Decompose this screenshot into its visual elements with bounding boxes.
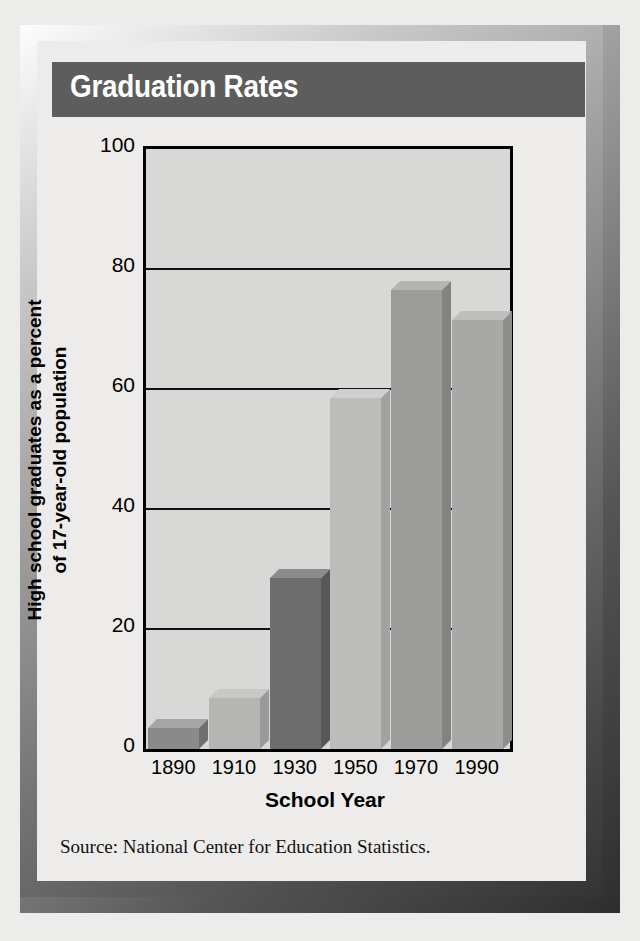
bar-top-1910 xyxy=(209,689,269,698)
figure-container: Graduation Rates 020406080100 1890191019… xyxy=(0,0,640,941)
x-tick-label-1970: 1970 xyxy=(386,756,447,779)
bar-front-1890 xyxy=(148,728,199,749)
bar-1950 xyxy=(330,389,381,749)
title-band: Graduation Rates xyxy=(52,62,585,117)
source-note: Source: National Center for Education St… xyxy=(60,836,430,858)
x-tick-label-1950: 1950 xyxy=(325,756,386,779)
bar-top-1930 xyxy=(270,569,330,578)
bar-top-1990 xyxy=(452,311,512,320)
x-tick-label-1890: 1890 xyxy=(143,756,204,779)
y-axis-title-line1: High school graduates as a percent xyxy=(24,300,45,621)
bar-top-1890 xyxy=(148,719,208,728)
gridline-80 xyxy=(146,268,510,270)
x-tick-label-1910: 1910 xyxy=(204,756,265,779)
bar-top-1950 xyxy=(330,389,390,398)
page-title: Graduation Rates xyxy=(70,69,298,105)
bar-1890 xyxy=(148,719,199,749)
bar-front-1930 xyxy=(270,578,321,749)
y-tick-label-100: 100 xyxy=(100,133,135,157)
y-tick-label-0: 0 xyxy=(123,733,135,757)
bar-front-1950 xyxy=(330,398,381,749)
bar-side-1950 xyxy=(381,389,390,749)
bar-side-1910 xyxy=(260,689,269,749)
y-tick-label-20: 20 xyxy=(112,613,135,637)
bar-side-1970 xyxy=(442,281,451,749)
y-tick-label-40: 40 xyxy=(112,493,135,517)
bar-1930 xyxy=(270,569,321,749)
y-axis-title: High school graduates as a percent of 17… xyxy=(22,250,72,670)
x-tick-label-1990: 1990 xyxy=(446,756,507,779)
bar-front-1970 xyxy=(391,290,442,749)
y-axis-title-line2: of 17-year-old population xyxy=(49,347,70,574)
bar-top-1970 xyxy=(391,281,451,290)
bar-1970 xyxy=(391,281,442,749)
x-axis-title: School Year xyxy=(143,788,507,812)
bar-side-1990 xyxy=(503,311,512,749)
bar-front-1910 xyxy=(209,698,260,749)
bar-1910 xyxy=(209,689,260,749)
y-tick-label-60: 60 xyxy=(112,373,135,397)
bar-side-1930 xyxy=(321,569,330,749)
bar-1990 xyxy=(452,311,503,749)
x-tick-label-1930: 1930 xyxy=(264,756,325,779)
bar-front-1990 xyxy=(452,320,503,749)
plot-area xyxy=(143,146,513,752)
y-axis-tick-labels: 020406080100 xyxy=(95,146,135,746)
y-tick-label-80: 80 xyxy=(112,253,135,277)
